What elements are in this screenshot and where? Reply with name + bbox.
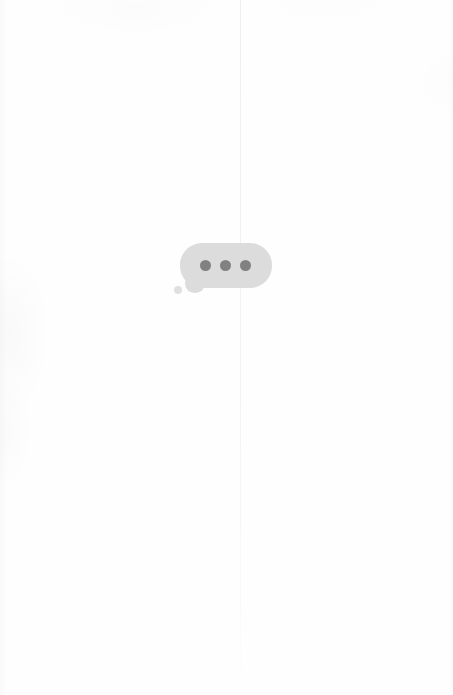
typing-indicator-label: Typing indicator [172, 238, 173, 239]
typing-dot-2-icon [220, 260, 231, 271]
chat-bubble-tail-icon [185, 274, 205, 293]
screen-canvas: Typing indicator [0, 0, 453, 695]
chat-bubble-tail-dot-icon [174, 286, 182, 294]
paper-texture-overlay [0, 0, 453, 695]
page-fold-line [240, 0, 241, 695]
typing-indicator: Typing indicator [172, 238, 280, 298]
typing-dot-1-icon [200, 260, 211, 271]
typing-dot-3-icon [240, 260, 251, 271]
